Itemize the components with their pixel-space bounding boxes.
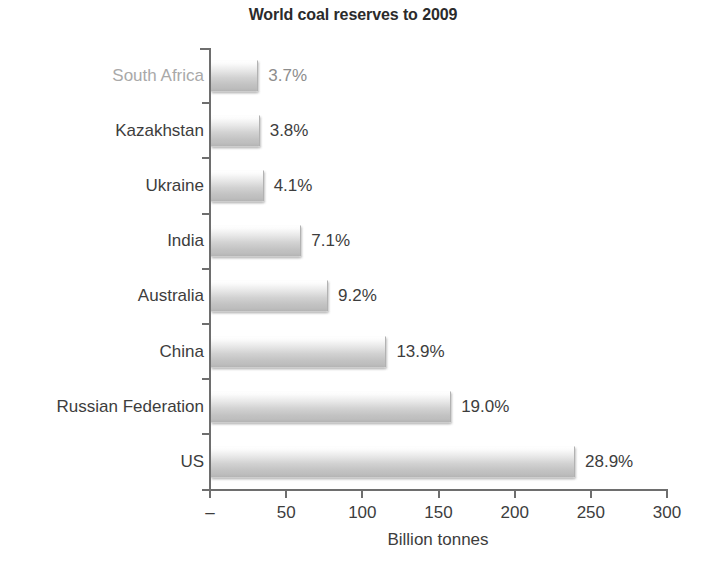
x-axis-tick-label: 50 — [256, 503, 316, 523]
y-axis-tick — [202, 378, 211, 380]
x-axis-tick — [438, 489, 440, 498]
bar-value-label: 13.9% — [396, 342, 444, 362]
bar-fill — [211, 60, 258, 91]
bar — [211, 336, 385, 367]
chart-title: World coal reserves to 2009 — [0, 6, 706, 24]
category-label: Australia — [0, 286, 204, 306]
x-axis-tick-label: 200 — [485, 503, 545, 523]
x-axis-tick-label: – — [180, 503, 240, 523]
category-label: China — [0, 342, 204, 362]
bar — [211, 115, 259, 146]
category-label: US — [0, 452, 204, 472]
chart-container: World coal reserves to 2009 South Africa… — [0, 0, 706, 564]
bar — [211, 170, 263, 201]
x-axis-tick — [514, 489, 516, 498]
x-axis-tick — [361, 489, 363, 498]
bar — [211, 226, 300, 257]
bar — [211, 281, 327, 312]
bar-value-label: 28.9% — [585, 452, 633, 472]
bar-value-label: 7.1% — [311, 231, 350, 251]
bar-value-label: 19.0% — [461, 397, 509, 417]
bar-fill — [211, 226, 301, 257]
bar — [211, 60, 257, 91]
y-axis-tick — [202, 157, 211, 159]
bar-fill — [211, 281, 328, 312]
bar-fill — [211, 446, 575, 477]
x-axis-tick-label: 100 — [332, 503, 392, 523]
category-label: Ukraine — [0, 176, 204, 196]
bar — [211, 446, 574, 477]
bar-row: India7.1% — [0, 214, 706, 269]
bar-fill — [211, 170, 264, 201]
bar-value-label: 4.1% — [274, 176, 313, 196]
x-axis-tick-label: 250 — [561, 503, 621, 523]
x-axis-tick — [666, 489, 668, 498]
category-label: South Africa — [0, 66, 204, 86]
x-axis-tick — [590, 489, 592, 498]
x-axis-tick-label: 300 — [637, 503, 697, 523]
y-axis-tick — [202, 213, 211, 215]
x-axis-tick-label: 150 — [409, 503, 469, 523]
bar-row: US28.9% — [0, 434, 706, 489]
bar-row: Ukraine4.1% — [0, 158, 706, 213]
bar-row: South Africa3.7% — [0, 48, 706, 103]
y-axis-tick — [202, 433, 211, 435]
bar — [211, 391, 450, 422]
x-axis-tick — [209, 489, 211, 498]
x-axis-tick — [285, 489, 287, 498]
bar-fill — [211, 115, 260, 146]
bar-row: China13.9% — [0, 324, 706, 379]
bar-fill — [211, 391, 451, 422]
bar-fill — [211, 336, 386, 367]
bar-row: Australia9.2% — [0, 269, 706, 324]
y-axis-tick — [202, 102, 211, 104]
bar-value-label: 9.2% — [338, 286, 377, 306]
bar-row: Kazakhstan3.8% — [0, 103, 706, 158]
bar-row: Russian Federation19.0% — [0, 379, 706, 434]
category-label: Kazakhstan — [0, 121, 204, 141]
y-axis-tick — [202, 323, 211, 325]
x-axis-title: Billion tonnes — [209, 530, 667, 550]
category-label: India — [0, 231, 204, 251]
category-label: Russian Federation — [0, 397, 204, 417]
y-axis-tick — [202, 268, 211, 270]
bar-value-label: 3.7% — [268, 66, 307, 86]
bar-value-label: 3.8% — [270, 121, 309, 141]
